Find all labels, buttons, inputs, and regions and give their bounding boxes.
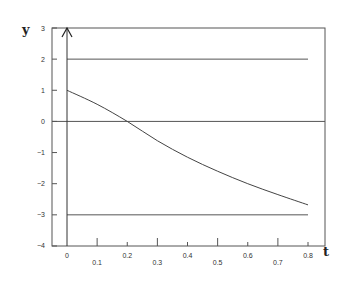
- y-tick-label: −1: [37, 149, 45, 156]
- x-tick-label: 0: [65, 252, 69, 259]
- data-curve: [67, 90, 308, 205]
- y-tick-label: 0: [41, 118, 45, 125]
- x-axis-label: t: [323, 244, 329, 259]
- plot-frame: [52, 28, 325, 246]
- x-tick-label: 0.2: [122, 252, 132, 259]
- y-tick-label: 1: [41, 87, 45, 94]
- x-tick-label: 0.1: [92, 259, 102, 266]
- x-tick-label: 0.8: [303, 252, 313, 259]
- chart: 3210−1−2−3−4 00.10.20.30.40.50.60.70.8 y…: [0, 0, 350, 281]
- x-axis-ticks: 00.10.20.30.40.50.60.70.8: [65, 238, 313, 266]
- x-tick-label: 0.4: [183, 252, 193, 259]
- y-tick-label: 2: [41, 56, 45, 63]
- x-tick-label: 0.7: [273, 259, 283, 266]
- reference-lines: [52, 59, 325, 215]
- y-tick-label: 3: [41, 25, 45, 32]
- x-tick-label: 0.3: [153, 259, 163, 266]
- x-tick-label: 0.6: [243, 252, 253, 259]
- y-tick-label: −2: [37, 180, 45, 187]
- y-axis-label: y: [21, 22, 30, 37]
- y-tick-label: −3: [37, 211, 45, 218]
- x-tick-label: 0.5: [213, 259, 223, 266]
- y-tick-label: −4: [37, 242, 45, 249]
- y-axis-ticks: 3210−1−2−3−4: [37, 25, 57, 250]
